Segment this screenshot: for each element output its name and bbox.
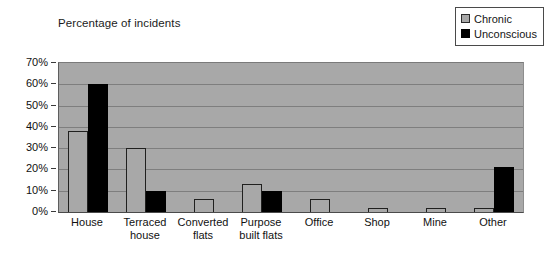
legend-label-chronic: Chronic [474, 13, 512, 25]
legend-swatch-chronic [461, 14, 470, 23]
legend-item-unconscious: Unconscious [461, 26, 537, 41]
bar-group [291, 63, 349, 212]
bar-group [233, 63, 291, 212]
bar-group [349, 63, 407, 212]
y-axis: 70%60%50%40%30%20%10%0% [0, 62, 56, 211]
bar-chronic [242, 184, 262, 212]
y-tick-mark [51, 62, 56, 63]
bar-group [407, 63, 465, 212]
x-axis-label-line: Other [465, 216, 521, 229]
bar-unconscious [146, 191, 166, 212]
y-tick-label: 0% [32, 205, 48, 217]
y-tick-mark [51, 83, 56, 84]
y-tick-label: 40% [26, 120, 48, 132]
y-tick-mark [51, 168, 56, 169]
x-axis-label-line: Office [291, 216, 347, 229]
x-axis-label-line: Purpose [233, 216, 289, 229]
x-axis-label: Convertedflats [174, 216, 232, 256]
y-tick-label: 50% [26, 99, 48, 111]
bar-chronic [126, 148, 146, 212]
x-axis-label: Mine [406, 216, 464, 256]
x-axis-label: Terracedhouse [116, 216, 174, 256]
bar-chronic [368, 208, 388, 212]
bar-group [59, 63, 117, 212]
y-tick-mark [51, 190, 56, 191]
y-tick-mark [51, 211, 56, 212]
bar-group [465, 63, 523, 212]
x-axis-label-line: flats [175, 229, 231, 242]
y-tick-mark [51, 105, 56, 106]
y-tick-mark [51, 126, 56, 127]
y-tick-label: 10% [26, 184, 48, 196]
bar-unconscious [494, 167, 514, 212]
x-axis-labels: HouseTerracedhouseConvertedflatsPurposeb… [58, 216, 522, 256]
bar-chronic [426, 208, 446, 212]
legend-swatch-unconscious [461, 29, 470, 38]
x-axis-label-line: House [59, 216, 115, 229]
bar-unconscious [88, 84, 108, 212]
plot-area [58, 62, 524, 213]
x-axis-label-line: Mine [407, 216, 463, 229]
bar-chronic [194, 199, 214, 212]
bar-chronic [68, 131, 88, 212]
x-axis-label-line: Converted [175, 216, 231, 229]
x-axis-label-line: Shop [349, 216, 405, 229]
x-axis-label: Purposebuilt flats [232, 216, 290, 256]
bars-layer [59, 63, 523, 212]
bar-chart: Percentage of incidents Chronic Unconsci… [0, 0, 552, 260]
x-axis-label: House [58, 216, 116, 256]
x-axis-label-line: built flats [233, 229, 289, 242]
x-axis-label: Office [290, 216, 348, 256]
bar-group [117, 63, 175, 212]
bar-chronic [310, 199, 330, 212]
y-tick-label: 30% [26, 141, 48, 153]
bar-group [175, 63, 233, 212]
y-tick-label: 70% [26, 56, 48, 68]
x-axis-label-line: Terraced [117, 216, 173, 229]
y-tick-mark [51, 147, 56, 148]
bar-chronic [474, 208, 494, 212]
legend-label-unconscious: Unconscious [474, 28, 537, 40]
x-axis-label: Shop [348, 216, 406, 256]
x-axis-label: Other [464, 216, 522, 256]
bar-unconscious [262, 191, 282, 212]
y-tick-label: 60% [26, 77, 48, 89]
legend-item-chronic: Chronic [461, 11, 537, 26]
chart-legend: Chronic Unconscious [455, 7, 544, 46]
y-tick-label: 20% [26, 162, 48, 174]
chart-title: Percentage of incidents [58, 17, 181, 29]
x-axis-label-line: house [117, 229, 173, 242]
